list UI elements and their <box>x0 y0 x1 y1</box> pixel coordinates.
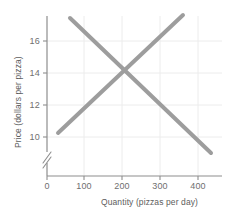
xtick-label-300: 300 <box>145 181 175 191</box>
horizontal-gridlines <box>47 41 222 137</box>
vertical-gridlines <box>84 16 198 176</box>
xtick-label-400: 400 <box>183 181 213 191</box>
supply-demand-plot: 16 14 12 10 0 100 200 300 400 Price (dol… <box>0 0 230 212</box>
xtick-label-100: 100 <box>69 181 99 191</box>
ytick-label-16: 16 <box>18 36 40 46</box>
supply-curve <box>58 15 183 133</box>
xtick-label-0: 0 <box>32 181 62 191</box>
chart-screenshot: 16 14 12 10 0 100 200 300 400 Price (dol… <box>0 0 230 212</box>
x-tick-marks <box>47 176 198 180</box>
demand-curve <box>70 18 211 153</box>
xtick-label-200: 200 <box>107 181 137 191</box>
x-axis-label: Quantity (pizzas per day) <box>101 197 198 207</box>
y-axis-label: Price (dollars per pizza) <box>13 56 23 148</box>
